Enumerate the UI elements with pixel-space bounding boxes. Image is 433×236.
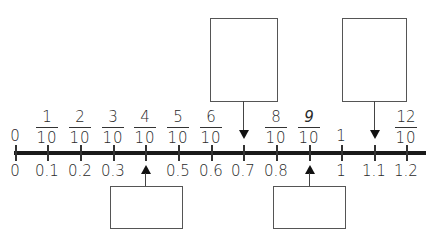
decimal-label-1-2: 1.2 — [389, 163, 423, 180]
denominator: 10 — [98, 130, 128, 146]
number-line — [14, 151, 426, 155]
fraction-bar — [36, 127, 58, 128]
decimal-label-0: 0 — [0, 163, 32, 180]
pointer-line — [243, 101, 244, 130]
decimal-label-0-3: 0.3 — [96, 163, 130, 180]
tick-0-5 — [178, 145, 180, 161]
fraction-bar — [69, 127, 91, 128]
fraction-12-10: 12 10 — [391, 109, 421, 146]
fraction-bar — [200, 127, 222, 128]
top-label-1: 1 — [331, 128, 351, 145]
numerator: 8 — [261, 109, 291, 126]
fraction-bar — [265, 127, 287, 128]
answer-box-bottom-0-4[interactable] — [110, 186, 183, 229]
tick-0-6 — [211, 145, 213, 161]
fraction-3-10: 3 10 — [98, 109, 128, 146]
pointer-line — [145, 173, 146, 187]
numerator: 6 — [196, 109, 226, 126]
answer-box-top-0-7[interactable] — [210, 18, 278, 102]
denominator: 10 — [32, 130, 62, 146]
tick-1 — [341, 145, 343, 161]
decimal-label-0-6: 0.6 — [194, 163, 228, 180]
denominator: 10 — [163, 130, 193, 146]
decimal-label-1-1: 1.1 — [357, 163, 391, 180]
decimal-label-0-5: 0.5 — [161, 163, 195, 180]
tick-1-2 — [406, 145, 408, 161]
numerator: 1 — [32, 109, 62, 126]
arrow-down-icon — [370, 130, 380, 139]
fraction-bar — [102, 127, 124, 128]
decimal-label-1: 1 — [324, 163, 358, 180]
tick-0-3 — [113, 145, 115, 161]
tick-0-9 — [309, 145, 311, 161]
pointer-line — [309, 173, 310, 187]
numerator: 2 — [65, 109, 95, 126]
arrow-down-icon — [239, 130, 249, 139]
tick-0-4 — [145, 145, 147, 161]
denominator: 10 — [261, 130, 291, 146]
decimal-label-0-1: 0.1 — [30, 163, 64, 180]
numerator: 12 — [391, 109, 421, 126]
fraction-9-10: 9 10 — [294, 109, 324, 146]
denominator: 10 — [391, 130, 421, 146]
top-label-0: 0 — [5, 128, 25, 145]
fraction-bar — [298, 127, 320, 128]
fraction-bar — [134, 127, 156, 128]
fraction-5-10: 5 10 — [163, 109, 193, 146]
number-line-diagram: 0 1 10 2 10 3 10 4 10 5 10 6 10 8 10 9 1… — [0, 0, 433, 236]
tick-0-1 — [47, 145, 49, 161]
fraction-8-10: 8 10 — [261, 109, 291, 146]
answer-box-bottom-0-9[interactable] — [273, 186, 346, 229]
tick-0-8 — [276, 145, 278, 161]
denominator: 10 — [196, 130, 226, 146]
tick-0-2 — [80, 145, 82, 161]
numerator: 5 — [163, 109, 193, 126]
tick-1-1 — [374, 145, 376, 161]
denominator: 10 — [65, 130, 95, 146]
pointer-line — [374, 101, 375, 130]
decimal-label-0-8: 0.8 — [259, 163, 293, 180]
numerator: 9 — [294, 109, 324, 126]
fraction-2-10: 2 10 — [65, 109, 95, 146]
tick-0-7 — [243, 145, 245, 161]
decimal-label-0-2: 0.2 — [63, 163, 97, 180]
numerator: 3 — [98, 109, 128, 126]
answer-box-top-1-1[interactable] — [342, 18, 407, 102]
fraction-6-10: 6 10 — [196, 109, 226, 146]
denominator: 10 — [130, 130, 160, 146]
decimal-label-0-7: 0.7 — [226, 163, 260, 180]
fraction-bar — [167, 127, 189, 128]
fraction-bar — [395, 127, 417, 128]
denominator: 10 — [294, 130, 324, 146]
tick-0 — [15, 145, 17, 161]
fraction-1-10: 1 10 — [32, 109, 62, 146]
numerator: 4 — [130, 109, 160, 126]
fraction-4-10: 4 10 — [130, 109, 160, 146]
